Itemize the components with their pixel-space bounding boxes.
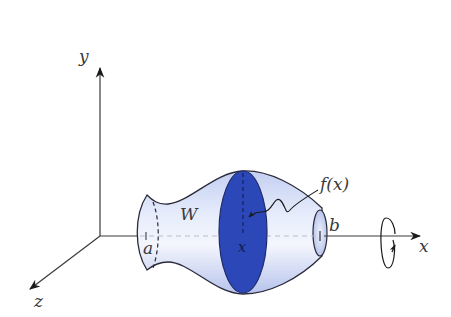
solid-of-revolution-figure: y x z W a x b f(x) — [0, 0, 451, 317]
x-axis-label: x — [419, 238, 429, 255]
cross-section-label: x — [238, 240, 246, 254]
solid-w — [137, 171, 327, 294]
y-axis-label: y — [79, 48, 89, 65]
left-bound-label: a — [143, 240, 153, 257]
right-bound-label: b — [329, 217, 340, 234]
z-axis — [30, 236, 100, 289]
radius-function-label: f(x) — [320, 176, 349, 193]
diagram-canvas — [0, 0, 451, 317]
rotation-icon — [381, 218, 395, 268]
solid-label: W — [180, 206, 197, 223]
z-axis-label: z — [34, 293, 43, 310]
